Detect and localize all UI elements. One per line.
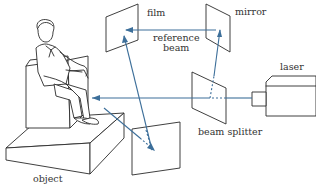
object-label: object bbox=[33, 173, 63, 184]
holography-diagram: film mirror reference beam laser beam sp… bbox=[0, 0, 316, 186]
second-plate bbox=[132, 122, 180, 175]
beam-splitter-label: beam splitter bbox=[198, 126, 263, 137]
reference-beam-label-line2: beam bbox=[163, 42, 189, 53]
film-label: film bbox=[147, 7, 165, 18]
film-plate bbox=[106, 4, 138, 52]
mirror-label: mirror bbox=[235, 6, 267, 17]
laser-device bbox=[252, 76, 316, 116]
laser-label: laser bbox=[280, 61, 304, 72]
